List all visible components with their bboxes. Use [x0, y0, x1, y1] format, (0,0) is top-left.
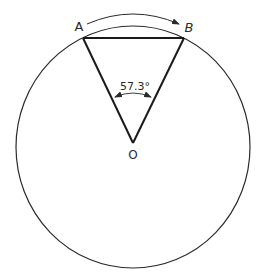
radian-diagram: A B 57.3° O — [0, 0, 268, 280]
label-point-a: A — [75, 19, 84, 34]
circle — [16, 26, 250, 268]
label-angle: 57.3° — [120, 80, 150, 93]
arc-arrow-icon — [87, 14, 179, 24]
diagram-canvas: A B 57.3° O — [0, 0, 268, 280]
angle-arc-icon — [115, 93, 151, 97]
label-center-o: O — [128, 148, 137, 162]
label-point-b: B — [185, 20, 194, 35]
